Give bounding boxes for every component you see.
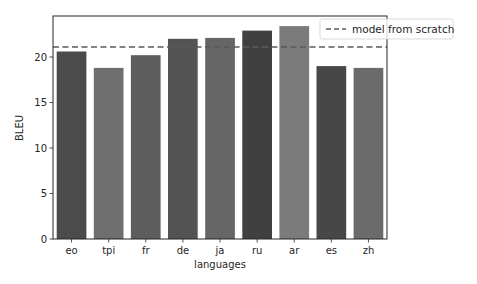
x-tick-label: de [177, 245, 190, 256]
legend-label: model from scratch [352, 23, 454, 35]
x-tick-label: eo [65, 245, 77, 256]
bar-ja [205, 38, 235, 239]
bar-de [168, 39, 198, 239]
x-tick-label: ar [289, 245, 300, 256]
bar-zh [354, 68, 384, 239]
y-axis-ticks: 05101520 [34, 52, 53, 245]
bleu-bar-chart: 05101520 eotpifrdejaruareszh languages B… [0, 0, 477, 284]
bar-ar [279, 26, 309, 239]
legend: model from scratch [320, 19, 454, 39]
y-tick-label: 0 [41, 234, 47, 245]
y-tick-label: 15 [34, 97, 47, 108]
x-tick-label: ru [252, 245, 262, 256]
bars-group [57, 26, 384, 239]
y-axis-label: BLEU [14, 115, 25, 141]
x-tick-label: tpi [102, 245, 115, 256]
x-tick-label: es [326, 245, 337, 256]
x-axis-label: languages [194, 259, 246, 270]
bar-ru [242, 31, 272, 239]
bar-eo [57, 52, 87, 240]
y-tick-label: 20 [34, 52, 47, 63]
x-tick-label: zh [363, 245, 375, 256]
bar-es [317, 66, 347, 239]
x-tick-label: fr [142, 245, 151, 256]
y-tick-label: 10 [34, 143, 47, 154]
y-tick-label: 5 [41, 188, 47, 199]
x-axis-ticks: eotpifrdejaruareszh [65, 239, 374, 256]
bar-tpi [94, 68, 124, 239]
x-tick-label: ja [215, 245, 225, 256]
bar-fr [131, 55, 161, 239]
